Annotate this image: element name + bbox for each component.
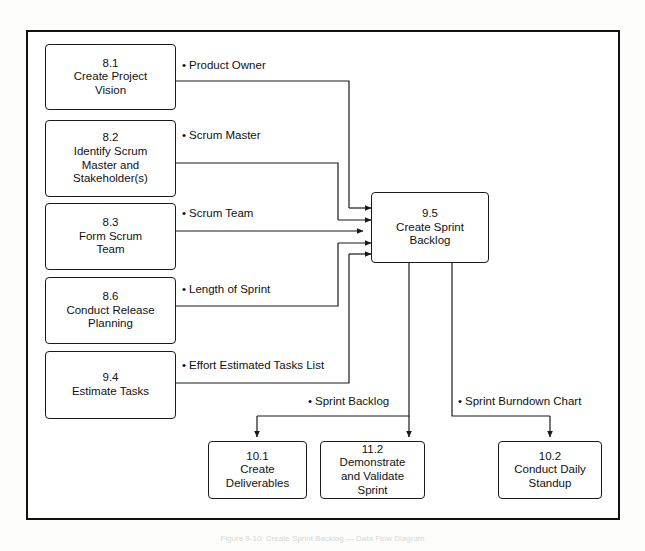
flow-label-scrum-master-text: Scrum Master [189, 129, 261, 141]
bullet-icon: • [308, 396, 312, 408]
flow-label-scrum-team-text: Scrum Team [189, 207, 253, 219]
flow-label-sprint-burndown: •Sprint Burndown Chart [458, 396, 581, 408]
process-title-8-3: Form ScrumTeam [79, 230, 142, 257]
flow-label-scrum-master: •Scrum Master [182, 130, 261, 142]
bullet-icon: • [458, 396, 462, 408]
diagram-page: 8.1 Create ProjectVision 8.2 Identify Sc… [0, 0, 645, 551]
process-title-11-2: Demonstrateand ValidateSprint [340, 456, 406, 497]
process-number-8-2: 8.2 [103, 131, 119, 145]
process-number-8-6: 8.6 [103, 290, 119, 304]
flow-label-effort-estimated-text: Effort Estimated Tasks List [189, 359, 324, 371]
process-box-8-3[interactable]: 8.3 Form ScrumTeam [45, 203, 176, 270]
figure-caption: Figure 9-10: Create Sprint Backlog — Dat… [0, 535, 645, 543]
process-title-8-2: Identify ScrumMaster andStakeholder(s) [73, 145, 148, 186]
bullet-icon: • [182, 130, 186, 142]
flow-label-product-owner-text: Product Owner [189, 59, 266, 71]
flow-label-effort-estimated: •Effort Estimated Tasks List [182, 360, 324, 372]
flow-label-sprint-backlog: •Sprint Backlog [308, 396, 389, 408]
flow-label-product-owner: •Product Owner [182, 60, 266, 72]
process-box-10-1[interactable]: 10.1 CreateDeliverables [208, 441, 307, 499]
process-title-8-1: Create ProjectVision [74, 70, 148, 97]
flow-label-length-of-sprint: •Length of Sprint [182, 284, 270, 296]
process-box-11-2[interactable]: 11.2 Demonstrateand ValidateSprint [320, 441, 425, 499]
bullet-icon: • [182, 60, 186, 72]
flow-label-sprint-backlog-text: Sprint Backlog [315, 395, 389, 407]
process-box-8-1[interactable]: 8.1 Create ProjectVision [45, 44, 176, 110]
bullet-icon: • [182, 208, 186, 220]
process-box-9-5[interactable]: 9.5 Create SprintBacklog [371, 192, 489, 263]
process-number-11-2: 11.2 [362, 443, 384, 457]
process-title-10-2: Conduct DailyStandup [514, 463, 586, 490]
process-number-8-3: 8.3 [103, 216, 119, 230]
process-box-8-2[interactable]: 8.2 Identify ScrumMaster andStakeholder(… [45, 120, 176, 197]
process-title-9-4: Estimate Tasks [72, 385, 149, 399]
process-number-8-1: 8.1 [103, 57, 119, 71]
process-number-9-4: 9.4 [103, 371, 119, 385]
process-title-8-6: Conduct ReleasePlanning [66, 304, 154, 331]
process-box-10-2[interactable]: 10.2 Conduct DailyStandup [498, 441, 602, 499]
process-box-8-6[interactable]: 8.6 Conduct ReleasePlanning [45, 277, 176, 344]
process-number-10-2: 10.2 [539, 450, 561, 464]
process-box-9-4[interactable]: 9.4 Estimate Tasks [45, 351, 176, 419]
flow-label-length-of-sprint-text: Length of Sprint [189, 283, 270, 295]
flow-label-scrum-team: •Scrum Team [182, 208, 253, 220]
process-number-9-5: 9.5 [422, 207, 438, 221]
process-title-10-1: CreateDeliverables [226, 463, 289, 490]
bullet-icon: • [182, 360, 186, 372]
process-number-10-1: 10.1 [246, 450, 268, 464]
process-title-9-5: Create SprintBacklog [396, 221, 464, 248]
bullet-icon: • [182, 284, 186, 296]
flow-label-sprint-burndown-text: Sprint Burndown Chart [465, 395, 581, 407]
